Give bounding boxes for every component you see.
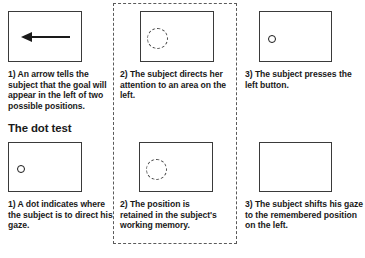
display-box-top-2 bbox=[140, 11, 214, 62]
caption-top-1: 1) An arrow tells the subject that the g… bbox=[8, 69, 112, 111]
left-arrow-icon bbox=[21, 32, 70, 42]
dot-stimulus-icon bbox=[268, 35, 276, 43]
figure-canvas: 1) An arrow tells the subject that the g… bbox=[0, 0, 365, 258]
attention-circle-icon bbox=[146, 159, 167, 180]
display-box-top-1 bbox=[8, 11, 82, 62]
clipped-footnote bbox=[110, 252, 290, 258]
dot-stimulus-icon bbox=[17, 165, 25, 173]
display-box-bottom-1 bbox=[8, 142, 82, 192]
caption-top-3: 3) The subject presses the left button. bbox=[245, 69, 360, 90]
caption-bottom-2: 2) The position is retained in the subje… bbox=[120, 199, 224, 231]
attention-circle-icon bbox=[147, 28, 168, 49]
caption-bottom-1: 1) A dot indicates where the subject is … bbox=[8, 199, 116, 231]
caption-bottom-3: 3) The subject shifts his gaze to the re… bbox=[245, 199, 363, 231]
section-heading-dot-test: The dot test bbox=[8, 122, 71, 135]
display-box-bottom-2 bbox=[139, 142, 213, 192]
arrow-shaft bbox=[29, 36, 70, 38]
arrow-head bbox=[21, 32, 32, 42]
caption-top-2: 2) The subject directs her attention to … bbox=[120, 69, 230, 101]
display-box-top-3 bbox=[259, 11, 332, 62]
display-box-bottom-3 bbox=[259, 142, 332, 192]
